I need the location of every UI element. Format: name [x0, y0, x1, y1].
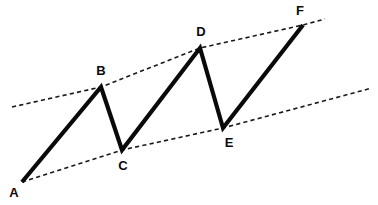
upper-resistance-trendline	[12, 19, 325, 107]
vertex-label-a: A	[9, 185, 19, 200]
vertex-label-b: B	[96, 63, 105, 78]
diagram-canvas: ABCDEF	[0, 0, 378, 205]
lower-support-trendline	[22, 88, 372, 182]
vertex-label-c: C	[118, 158, 128, 173]
trendlines-group	[12, 19, 372, 182]
zigzag-group	[22, 25, 303, 182]
vertex-label-f: F	[296, 3, 304, 18]
ascending-channel-figure: ABCDEF	[0, 0, 378, 205]
price-zigzag-line	[22, 25, 303, 182]
vertex-label-e: E	[225, 135, 234, 150]
vertex-label-d: D	[196, 24, 205, 39]
